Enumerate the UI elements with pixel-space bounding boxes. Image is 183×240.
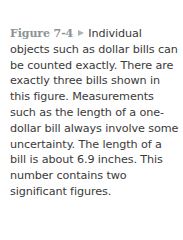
figure-caption: Figure 7-4Individual objects such as dol… <box>10 26 180 198</box>
caption-text: Individual objects such as dollar bills … <box>10 27 178 198</box>
triangle-right-icon <box>78 30 84 36</box>
figure-label: Figure 7-4 <box>10 27 73 40</box>
